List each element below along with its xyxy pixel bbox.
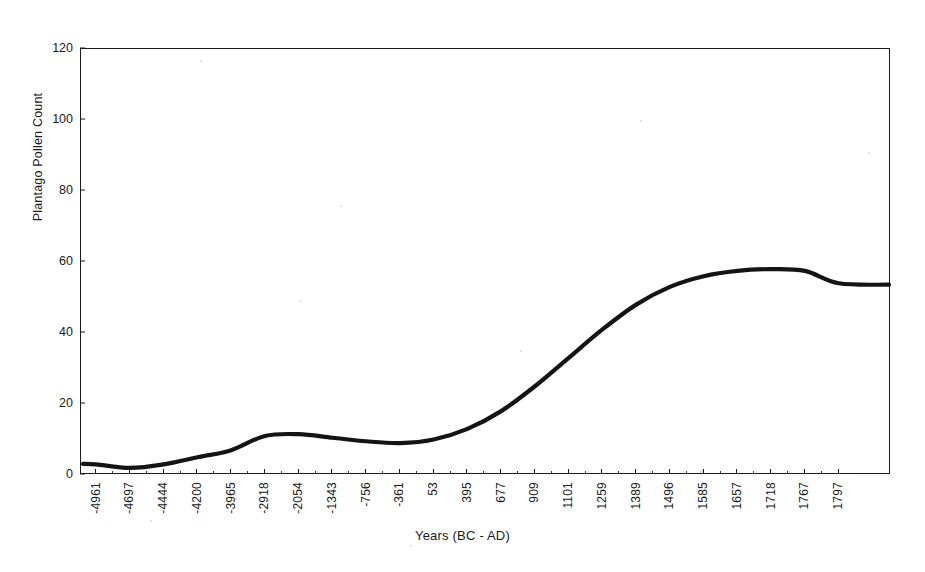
y-tick-label: 20	[33, 396, 73, 410]
y-tick-label: 0	[33, 467, 73, 481]
x-tick-label: 1496	[662, 482, 676, 510]
x-tick-minor-mark	[281, 471, 282, 474]
scan-artifact	[96, 505, 98, 507]
x-tick-mark	[95, 469, 96, 474]
x-tick-label: -4961	[89, 482, 103, 514]
x-tick-mark	[230, 469, 231, 474]
x-tick-label: -4697	[122, 482, 136, 514]
x-tick-label: -1343	[325, 482, 339, 514]
x-tick-minor-mark	[180, 471, 181, 474]
x-tick-label: 1767	[797, 482, 811, 510]
x-tick-label: 909	[527, 482, 541, 503]
x-tick-mark	[466, 469, 467, 474]
x-tick-minor-mark	[585, 471, 586, 474]
y-tick-mark	[80, 261, 85, 262]
scan-artifact	[150, 520, 152, 522]
x-tick-label: -4200	[190, 482, 204, 514]
x-tick-mark	[534, 469, 535, 474]
x-tick-minor-mark	[450, 471, 451, 474]
x-tick-label: -3965	[224, 482, 238, 514]
x-tick-label: 1389	[629, 482, 643, 510]
x-tick-minor-mark	[247, 471, 248, 474]
x-axis-title: Years (BC - AD)	[0, 528, 925, 543]
plot-area	[80, 48, 890, 474]
x-tick-mark	[838, 469, 839, 474]
x-tick-mark	[129, 469, 130, 474]
x-tick-mark	[399, 469, 400, 474]
x-tick-mark	[568, 469, 569, 474]
x-tick-minor-mark	[213, 471, 214, 474]
x-tick-mark	[635, 469, 636, 474]
y-tick-mark	[80, 190, 85, 191]
x-tick-minor-mark	[517, 471, 518, 474]
x-tick-label: -2054	[291, 482, 305, 514]
y-axis-title: Plantago Pollen Count	[31, 7, 45, 307]
x-tick-minor-mark	[787, 471, 788, 474]
scan-artifact	[700, 470, 703, 473]
scan-artifact	[340, 205, 342, 207]
scan-artifact	[410, 545, 412, 547]
y-tick-mark	[80, 119, 85, 120]
x-tick-label: 1797	[831, 482, 845, 510]
x-tick-minor-mark	[382, 471, 383, 474]
x-tick-minor-mark	[315, 471, 316, 474]
x-tick-label: 677	[494, 482, 508, 503]
x-tick-label: -4444	[156, 482, 170, 514]
x-tick-label: -361	[392, 482, 406, 507]
x-tick-mark	[601, 469, 602, 474]
x-tick-minor-mark	[652, 471, 653, 474]
y-tick-mark	[80, 48, 85, 49]
scan-artifact	[200, 60, 202, 62]
x-tick-label: -756	[359, 482, 373, 507]
series-layer	[81, 49, 891, 475]
x-tick-label: 1718	[764, 482, 778, 510]
x-tick-mark	[163, 469, 164, 474]
x-tick-minor-mark	[483, 471, 484, 474]
x-tick-mark	[736, 469, 737, 474]
scan-artifact	[868, 152, 870, 154]
x-tick-minor-mark	[146, 471, 147, 474]
x-tick-mark	[500, 469, 501, 474]
scan-artifact	[300, 300, 302, 302]
x-tick-mark	[433, 469, 434, 474]
y-tick-mark	[80, 332, 85, 333]
scan-artifact	[520, 350, 522, 352]
scan-artifact	[640, 120, 642, 122]
x-tick-label: 1101	[561, 482, 575, 509]
x-tick-minor-mark	[551, 471, 552, 474]
x-tick-mark	[804, 469, 805, 474]
x-tick-minor-mark	[720, 471, 721, 474]
y-tick-mark	[80, 474, 85, 475]
x-tick-minor-mark	[416, 471, 417, 474]
x-tick-mark	[669, 469, 670, 474]
x-tick-label: 1259	[595, 482, 609, 510]
x-tick-label: 1585	[696, 482, 710, 510]
x-tick-mark	[770, 469, 771, 474]
x-tick-mark	[298, 469, 299, 474]
plantago-pollen-line	[83, 269, 889, 468]
x-tick-mark	[331, 469, 332, 474]
x-tick-minor-mark	[348, 471, 349, 474]
x-tick-minor-mark	[753, 471, 754, 474]
y-tick-mark	[80, 403, 85, 404]
x-tick-label: 53	[426, 482, 440, 496]
x-tick-label: 395	[460, 482, 474, 503]
x-tick-minor-mark	[686, 471, 687, 474]
x-tick-mark	[365, 469, 366, 474]
y-tick-label: 40	[33, 325, 73, 339]
x-tick-minor-mark	[618, 471, 619, 474]
x-tick-minor-mark	[821, 471, 822, 474]
x-tick-mark	[196, 469, 197, 474]
x-tick-label: -2918	[257, 482, 271, 514]
x-tick-mark	[264, 469, 265, 474]
pollen-count-chart-figure: 020406080100120 -4961-4697-4444-4200-396…	[0, 0, 925, 572]
x-tick-label: 1657	[730, 482, 744, 510]
x-tick-minor-mark	[112, 471, 113, 474]
